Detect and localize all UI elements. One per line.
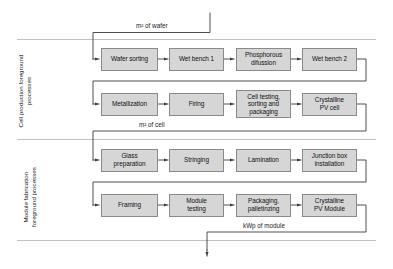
band-label-module-fabrication: Module fabrication foreground processes xyxy=(15,149,37,245)
process-box-junction-box-installation[interactable]: Junction box installation xyxy=(302,149,357,172)
process-box-glass-preparation[interactable]: Glass preparation xyxy=(101,149,158,172)
band-label-module-fabrication-text: Module fabrication foreground processes xyxy=(22,167,36,227)
process-box-lamination[interactable]: Lamination xyxy=(236,149,291,172)
process-flow-diagram xyxy=(0,0,393,269)
band-label-cell-production-text: Cell production foreground processes xyxy=(17,55,31,128)
process-box-stringing[interactable]: Stringing xyxy=(169,149,224,172)
band-label-cell-production: Cell production foreground processes xyxy=(10,43,32,139)
process-box-wet-bench-2[interactable]: Wet bench 2 xyxy=(302,48,357,71)
process-box-framing[interactable]: Framing xyxy=(101,194,158,217)
process-box-packaging-palletinzing[interactable]: Packaging, palletinzing xyxy=(236,194,291,217)
flow-label-output-module: kWp of module xyxy=(243,222,285,229)
process-box-crystalline-pv-module[interactable]: Crystalline PV Module xyxy=(302,194,357,217)
process-box-module-testing[interactable]: Module testing xyxy=(169,194,224,217)
flow-label-cell-to-module: m² of cell xyxy=(139,121,165,128)
process-box-cell-testing-sorting-packaging[interactable]: Cell testing, sorting and packaging xyxy=(236,90,291,118)
process-box-metallization[interactable]: Metallization xyxy=(101,93,158,116)
flow-label-input-wafer: m² of wafer xyxy=(136,22,168,29)
process-box-wet-bench-1[interactable]: Wet bench 1 xyxy=(169,48,224,71)
process-box-wafer-sorting[interactable]: Wafer sorting xyxy=(101,48,158,71)
process-box-phosphorous-difussion[interactable]: Phosphorous difussion xyxy=(236,48,291,71)
process-box-firing[interactable]: Firing xyxy=(169,93,224,116)
process-box-crystalline-pv-cell[interactable]: Crystalline PV cell xyxy=(302,93,357,116)
